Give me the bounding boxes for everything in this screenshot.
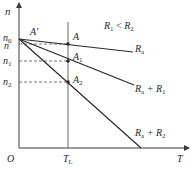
n-label: n <box>4 40 9 51</box>
n2-label: n2 <box>3 76 12 89</box>
point-a-prime-label: A' <box>29 26 39 37</box>
x-axis-label: T <box>177 153 184 164</box>
point-a-label: A <box>72 31 80 42</box>
n1-label: n1 <box>3 55 12 68</box>
point-a2 <box>66 80 70 84</box>
point-a <box>66 42 70 46</box>
condition-label: R1 < R2 <box>103 20 134 33</box>
point-a2-label: A2 <box>72 74 83 87</box>
line-ra-label: Ra <box>134 43 145 56</box>
origin-label: O <box>7 153 14 164</box>
line-ra-r2-label: Ra + R2 <box>134 127 166 140</box>
y-axis-label: n <box>5 5 11 17</box>
point-a1 <box>66 59 70 63</box>
characteristic-diagram: n T O n0 n n1 n2 TL A' A A1 A2 R1 < R2 R… <box>0 0 193 172</box>
tl-label: TL <box>63 153 73 166</box>
line-ra-r1-label: Ra + R1 <box>134 83 166 96</box>
